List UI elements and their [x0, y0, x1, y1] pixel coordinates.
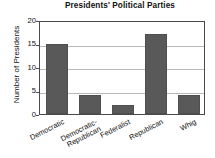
y-axis-tick-label: 20 [20, 17, 36, 25]
bar [112, 105, 134, 114]
y-axis-tick-label: 10 [20, 64, 36, 72]
y-axis-tick-mark [36, 115, 39, 116]
y-axis-tick-label: 0 [20, 111, 36, 119]
x-axis-tick-label-line: Whig [179, 117, 198, 133]
bar-slot [106, 22, 139, 114]
bar-chart: Presidents' Political Parties Number of … [0, 0, 215, 158]
plot-area [39, 21, 205, 115]
y-axis-tick-label: 15 [20, 40, 36, 48]
bar [178, 95, 200, 114]
bar-series [40, 22, 204, 114]
bar-slot [173, 22, 205, 114]
chart-title: Presidents' Political Parties [30, 1, 210, 11]
bar [46, 44, 68, 115]
bar [145, 34, 167, 114]
bar-slot [40, 22, 73, 114]
bar-slot [73, 22, 106, 114]
bar-slot [140, 22, 173, 114]
y-axis-tick-label: 5 [20, 87, 36, 95]
bar [79, 95, 101, 114]
